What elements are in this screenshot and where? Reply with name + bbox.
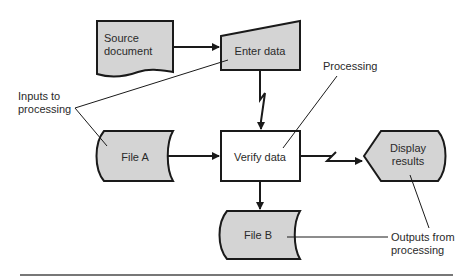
comm-link-enter-to-verify — [260, 70, 265, 129]
display-results-node: Display results — [364, 131, 446, 181]
flowchart-canvas: Source document Enter data Verify data F… — [0, 0, 469, 280]
source-document-node: Source document — [97, 21, 173, 76]
file-b-node: File B — [220, 211, 301, 259]
source-document-label-1: Source — [104, 32, 139, 44]
outputs-annotation: Outputs from processing — [287, 175, 455, 256]
outputs-annotation-line-1: Outputs from — [391, 231, 455, 243]
display-results-label-1: Display — [390, 142, 427, 154]
source-document-label-2: document — [104, 45, 152, 57]
file-a-node: File A — [97, 131, 174, 181]
processing-leader-line — [283, 76, 337, 148]
verify-data-label: Verify data — [234, 151, 287, 163]
inputs-annotation-line-2: processing — [18, 103, 71, 115]
file-b-label: File B — [244, 229, 272, 241]
processing-annotation-label: Processing — [323, 60, 377, 72]
file-a-label: File A — [121, 151, 149, 163]
verify-data-node: Verify data — [221, 131, 300, 181]
inputs-annotation-line-1: Inputs to — [18, 90, 60, 102]
enter-data-node: Enter data — [221, 21, 300, 70]
outputs-leader-line-display — [410, 175, 429, 228]
display-results-label-2: results — [392, 155, 425, 167]
comm-link-verify-to-display — [300, 152, 362, 161]
outputs-annotation-line-2: processing — [391, 244, 444, 256]
enter-data-label: Enter data — [235, 45, 287, 57]
